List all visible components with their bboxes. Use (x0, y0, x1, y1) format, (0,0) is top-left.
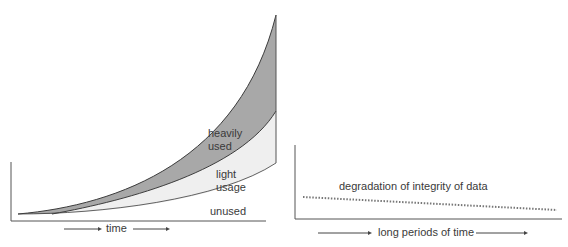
heavily-used-label-line1: heavily (208, 127, 242, 140)
time-axis-label: time (106, 222, 127, 235)
unused-label: unused (210, 205, 246, 218)
arrowhead-icon (368, 231, 372, 235)
light-usage-label: light usage (216, 168, 246, 194)
heavily-used-label: heavily used (208, 127, 242, 153)
long-periods-axis-label: long periods of time (378, 226, 474, 239)
light-usage-label-line2: usage (216, 181, 246, 194)
light-usage-label-line1: light (216, 168, 246, 181)
arrowhead-icon (524, 231, 528, 235)
diagram-canvas (0, 0, 568, 247)
arrowhead-icon (166, 227, 170, 231)
degradation-label: degradation of integrity of data (339, 180, 488, 193)
heavily-used-label-line2: used (208, 140, 242, 153)
arrowhead-icon (98, 227, 102, 231)
degradation-dotted-line (303, 197, 557, 210)
